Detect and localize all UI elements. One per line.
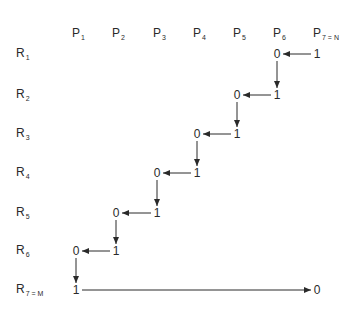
arrow-down-1 bbox=[274, 61, 280, 88]
arrow-paths bbox=[0, 0, 360, 320]
arrow-right-12 bbox=[82, 287, 311, 293]
arrow-down-9 bbox=[113, 220, 119, 244]
arrow-left-0 bbox=[283, 51, 311, 57]
arrow-left-6 bbox=[163, 170, 191, 176]
arrow-left-4 bbox=[203, 131, 231, 137]
arrow-left-10 bbox=[82, 248, 110, 254]
arrow-down-3 bbox=[234, 102, 240, 127]
arrow-down-7 bbox=[154, 180, 160, 206]
arrow-left-2 bbox=[243, 92, 271, 98]
arrow-left-8 bbox=[122, 210, 151, 216]
arrow-down-11 bbox=[73, 258, 79, 283]
arrow-down-5 bbox=[194, 141, 200, 166]
